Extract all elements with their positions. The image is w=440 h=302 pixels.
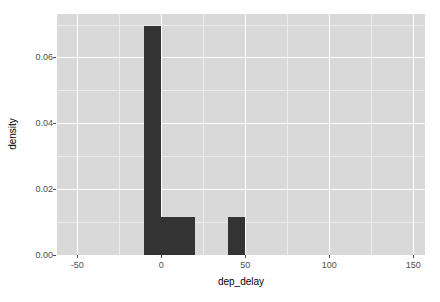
- x-axis-tick-mark: [161, 255, 162, 258]
- gridline-major-horizontal: [57, 189, 425, 190]
- gridline-major-horizontal: [57, 123, 425, 124]
- x-axis-tick-label: 150: [393, 260, 433, 270]
- gridline-minor-horizontal: [57, 90, 425, 91]
- gridline-major-vertical: [413, 14, 414, 255]
- histogram-bar: [144, 26, 161, 255]
- gridline-major-horizontal: [57, 57, 425, 58]
- y-axis-tick-label: 0.04: [19, 118, 53, 128]
- gridline-minor-horizontal: [57, 25, 425, 26]
- y-axis-tick-label: 0.06: [19, 52, 53, 62]
- y-axis-tick-mark: [53, 57, 56, 58]
- x-axis-tick-label: -50: [57, 260, 97, 270]
- x-axis-tick-label: 50: [225, 260, 265, 270]
- x-axis-tick-mark: [413, 255, 414, 258]
- histogram-bar: [228, 217, 245, 255]
- y-axis-tick-mark: [53, 123, 56, 124]
- histogram-bar: [161, 217, 178, 255]
- gridline-minor-vertical: [287, 14, 288, 255]
- histogram-plot: density 0.000.020.040.06 -50050100150 de…: [0, 0, 440, 302]
- gridline-minor-vertical: [119, 14, 120, 255]
- x-axis-tick-mark: [245, 255, 246, 258]
- x-axis-title: dep_delay: [57, 276, 425, 287]
- plot-panel: [57, 14, 425, 255]
- y-axis-tick-label: 0.00: [19, 250, 53, 260]
- x-axis-tick-mark: [329, 255, 330, 258]
- gridline-minor-vertical: [371, 14, 372, 255]
- gridline-major-vertical: [245, 14, 246, 255]
- y-axis-tick-mark: [53, 189, 56, 190]
- gridline-major-vertical: [77, 14, 78, 255]
- x-axis-tick-label: 0: [141, 260, 181, 270]
- x-axis-tick-label: 100: [309, 260, 349, 270]
- y-axis: 0.000.020.040.06: [0, 0, 53, 302]
- y-axis-tick-label: 0.02: [19, 184, 53, 194]
- gridline-minor-horizontal: [57, 156, 425, 157]
- x-axis-tick-mark: [77, 255, 78, 258]
- y-axis-tick-mark: [53, 255, 56, 256]
- gridline-major-vertical: [329, 14, 330, 255]
- histogram-bar: [178, 217, 195, 255]
- gridline-minor-vertical: [203, 14, 204, 255]
